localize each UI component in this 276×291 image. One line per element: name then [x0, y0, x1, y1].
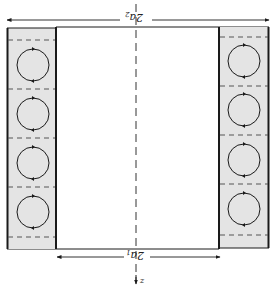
inner-width-dimension: 2a1	[57, 248, 220, 262]
z-axis-label: z	[139, 276, 145, 285]
outer-width-label: 2a2	[124, 10, 144, 24]
annular-cavity-diagram: z 2a2 2a1	[0, 0, 276, 291]
left-column	[7, 27, 56, 249]
outer-width-dimension: 2a2	[7, 10, 269, 24]
inner-width-label: 2a1	[126, 248, 145, 262]
right-column	[219, 27, 269, 249]
